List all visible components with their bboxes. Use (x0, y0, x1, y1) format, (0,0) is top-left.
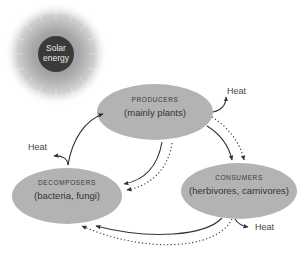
arrow-producers-to-consumers-dotted (212, 117, 244, 160)
heat-label-consumers: Heat (255, 222, 275, 232)
consumers-title: CONSUMERS (215, 174, 263, 181)
arrow-producers-to-decomposers (124, 142, 162, 184)
sun-label-line2: energy (43, 53, 70, 63)
arrow-decomposers-to-producers (68, 114, 103, 165)
heat-label-decomposers: Heat (28, 142, 48, 152)
node-consumers: CONSUMERS (herbivores, carnivores) (181, 163, 297, 219)
heat-arrow-producers (213, 97, 226, 112)
heat-label-producers: Heat (227, 86, 247, 96)
sun-label-line1: Solar (46, 43, 66, 53)
arrow-consumers-to-decomposers (96, 218, 222, 234)
heat-arrow-consumers (235, 219, 248, 227)
node-producers: PRODUCERS (mainly plants) (97, 84, 213, 140)
decomposers-subtitle: (bacteria, fungi) (34, 190, 100, 201)
producers-title: PRODUCERS (132, 96, 179, 103)
heat-arrow-decomposers (54, 156, 68, 165)
arrow-consumers-to-decomposers-dotted (82, 219, 232, 245)
node-decomposers: DECOMPOSERS (bacteria, fungi) (12, 168, 122, 224)
consumers-subtitle: (herbivores, carnivores) (189, 185, 289, 196)
producers-subtitle: (mainly plants) (124, 107, 186, 118)
ecosystem-cycle-diagram: Solar energy PRODUCERS (mainly plants) D… (0, 0, 305, 262)
solar-energy-sun: Solar energy (4, 2, 108, 106)
arrow-producers-to-consumers (207, 126, 232, 160)
arrow-producers-to-decomposers-dotted (127, 143, 172, 190)
decomposers-title: DECOMPOSERS (38, 179, 96, 186)
